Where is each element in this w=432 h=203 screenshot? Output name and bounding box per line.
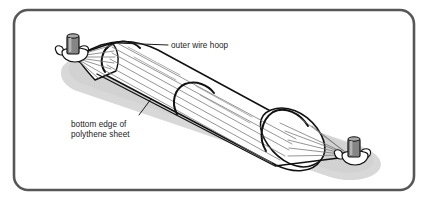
label-bottom-edge-line1: bottom edge of <box>71 120 127 129</box>
figure-container: outer wire hoop bottom edge of polythene… <box>0 0 432 203</box>
label-bottom-edge-line2: polythene sheet <box>71 130 130 139</box>
polythene-tube-diagram: outer wire hoop bottom edge of polythene… <box>0 0 432 203</box>
label-outer-wire-hoop: outer wire hoop <box>171 41 229 50</box>
